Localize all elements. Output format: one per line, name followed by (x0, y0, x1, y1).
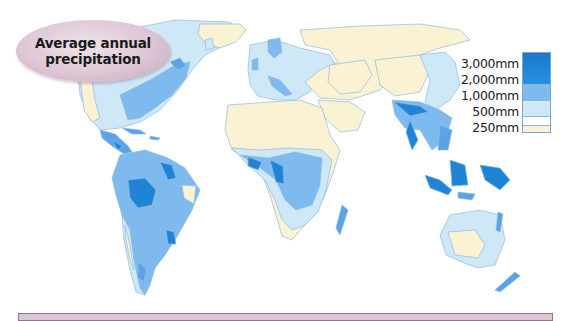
map-title-bubble: Average annual precipitation (16, 20, 170, 82)
legend-swatch-250 (523, 126, 550, 132)
precipitation-legend: 3,000mm 2,000mm 1,000mm 500mm 250mm (460, 52, 555, 134)
south-america (112, 150, 200, 295)
australia (440, 210, 520, 292)
legend-label-3000: 3,000mm (461, 56, 519, 72)
legend-swatch-1000 (523, 101, 550, 117)
legend-label-1000: 1,000mm (461, 88, 519, 104)
legend-swatches (522, 52, 551, 133)
title-line-2: precipitation (45, 51, 140, 67)
legend-label-2000: 2,000mm (461, 72, 519, 88)
legend-label-250: 250mm (461, 120, 519, 136)
title-line-1: Average annual (35, 35, 151, 51)
footer-bar (18, 313, 553, 321)
southeast-asia (425, 160, 510, 200)
legend-label-500: 500mm (461, 104, 519, 120)
legend-swatch-2000 (523, 85, 550, 101)
legend-labels: 3,000mm 2,000mm 1,000mm 500mm 250mm (461, 56, 519, 136)
legend-swatch-3000 (523, 53, 550, 85)
legend-swatch-500 (523, 117, 550, 126)
